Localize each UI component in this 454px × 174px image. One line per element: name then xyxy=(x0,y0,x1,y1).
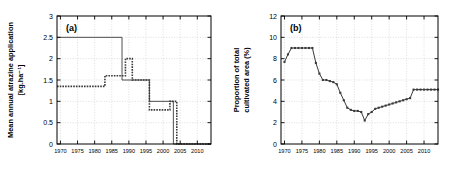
panel-b-svg: 024681012 197019751980198519901995200020… xyxy=(227,0,454,174)
panel-a-svg: 00.511.522.53 19701975198019851990199520… xyxy=(0,0,227,174)
xtick-label: 2000 xyxy=(157,148,169,154)
figure-container: 00.511.522.53 19701975198019851990199520… xyxy=(0,0,454,174)
data-point-marker xyxy=(332,81,334,83)
data-point-marker xyxy=(392,102,394,104)
data-point-marker xyxy=(301,47,303,49)
xtick-label: 1980 xyxy=(88,148,100,154)
panel-a-ytick-labels: 00.511.522.53 xyxy=(43,13,53,148)
data-point-marker xyxy=(350,109,352,111)
ytick-label: 0.5 xyxy=(43,119,53,126)
data-point-marker xyxy=(304,47,306,49)
data-point-marker xyxy=(325,79,327,81)
xtick-label: 2010 xyxy=(191,148,203,154)
panel-a-ylabel-line2: [kg.ha⁻¹] xyxy=(16,64,25,95)
data-point-marker xyxy=(297,47,299,49)
panel-a-xtick-labels: 197019751980198519901995200020052010 xyxy=(54,148,203,154)
ytick-label: 0 xyxy=(49,141,53,148)
xtick-label: 1975 xyxy=(296,148,308,154)
data-point-marker xyxy=(381,106,383,108)
ytick-label: 0 xyxy=(273,141,277,148)
data-point-marker xyxy=(360,111,362,113)
data-point-marker xyxy=(318,73,320,75)
ytick-label: 6 xyxy=(273,77,277,84)
data-point-marker xyxy=(406,98,408,100)
ytick-label: 2 xyxy=(273,119,277,126)
xtick-label: 1990 xyxy=(348,148,360,154)
ytick-label: 1 xyxy=(49,98,53,105)
data-point-marker xyxy=(343,99,345,101)
ytick-label: 2 xyxy=(49,55,53,62)
xtick-label: 1970 xyxy=(278,148,290,154)
panel-b-tag: (b) xyxy=(290,23,302,33)
data-point-marker xyxy=(322,79,324,81)
xtick-label: 1985 xyxy=(331,148,343,154)
data-point-marker xyxy=(283,61,285,63)
data-point-marker xyxy=(423,89,425,91)
data-point-marker xyxy=(371,111,373,113)
data-point-marker xyxy=(367,113,369,115)
panel-b-ylabel-line1: Proportion of total xyxy=(232,48,241,112)
ytick-label: 1.5 xyxy=(43,77,53,84)
data-point-marker xyxy=(399,100,401,102)
data-point-marker xyxy=(430,89,432,91)
panel-a-tag: (a) xyxy=(66,23,77,33)
panel-a-ylabel-line1: Mean annual atrazine application xyxy=(6,22,15,138)
ytick-label: 10 xyxy=(269,34,277,41)
data-point-marker xyxy=(374,108,376,110)
data-point-marker xyxy=(416,89,418,91)
xtick-label: 1975 xyxy=(71,148,83,154)
chart-panel-b: 024681012 197019751980198519901995200020… xyxy=(227,0,454,174)
panel-b-gridlines xyxy=(281,16,438,144)
xtick-label: 1970 xyxy=(54,148,66,154)
xtick-label: 2005 xyxy=(174,148,186,154)
data-point-marker xyxy=(364,119,366,121)
data-point-marker xyxy=(433,89,435,91)
data-point-marker xyxy=(395,101,397,103)
data-point-marker xyxy=(353,110,355,112)
data-point-marker xyxy=(413,89,415,91)
data-point-marker xyxy=(378,107,380,109)
ytick-label: 12 xyxy=(269,13,277,20)
xtick-label: 1995 xyxy=(365,148,377,154)
data-point-marker xyxy=(409,97,411,99)
panel-b-xtick-labels: 197019751980198519901995200020052010 xyxy=(278,148,430,154)
xtick-label: 1995 xyxy=(140,148,152,154)
data-point-marker xyxy=(329,80,331,82)
data-point-marker xyxy=(336,83,338,85)
panel-b-ylabel-line2: cultivated area (%) xyxy=(242,47,251,113)
ytick-label: 2.5 xyxy=(43,34,53,41)
data-point-marker xyxy=(315,62,317,64)
data-point-marker xyxy=(402,99,404,101)
xtick-label: 2005 xyxy=(400,148,412,154)
xtick-label: 2000 xyxy=(383,148,395,154)
data-point-marker xyxy=(311,47,313,49)
ytick-label: 8 xyxy=(273,55,277,62)
xtick-label: 1985 xyxy=(106,148,118,154)
panel-a-series xyxy=(57,37,211,144)
panel-b-markers xyxy=(283,47,439,122)
data-point-marker xyxy=(420,89,422,91)
xtick-label: 2010 xyxy=(418,148,430,154)
data-point-marker xyxy=(294,47,296,49)
data-point-marker xyxy=(357,110,359,112)
data-point-marker xyxy=(339,92,341,94)
data-series-line xyxy=(57,37,211,144)
data-point-marker xyxy=(287,53,289,55)
data-point-marker xyxy=(426,89,428,91)
panel-b-ytick-labels: 024681012 xyxy=(269,13,277,148)
ytick-label: 3 xyxy=(49,13,53,20)
ytick-label: 4 xyxy=(273,98,277,105)
data-point-marker xyxy=(346,107,348,109)
data-point-marker xyxy=(388,103,390,105)
data-point-marker xyxy=(290,47,292,49)
chart-panel-a: 00.511.522.53 19701975198019851990199520… xyxy=(0,0,227,174)
data-point-marker xyxy=(308,47,310,49)
xtick-label: 1990 xyxy=(123,148,135,154)
data-point-marker xyxy=(385,105,387,107)
xtick-label: 1980 xyxy=(313,148,325,154)
